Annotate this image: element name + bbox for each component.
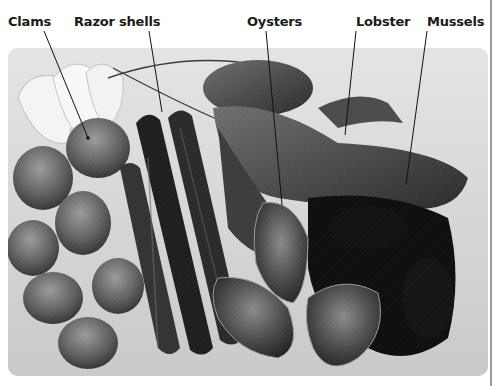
label-clams: Clams bbox=[8, 14, 51, 30]
shellfish-photo bbox=[8, 48, 488, 376]
label-oysters: Oysters bbox=[247, 14, 302, 30]
label-lobster: Lobster bbox=[356, 14, 410, 30]
page-edge-rule bbox=[490, 0, 492, 386]
photo-illustration bbox=[8, 48, 488, 376]
label-razor-shells: Razor shells bbox=[74, 14, 160, 30]
label-mussels: Mussels bbox=[427, 14, 484, 30]
figure: Clams Razor shells Oysters Lobster Musse… bbox=[0, 0, 494, 386]
